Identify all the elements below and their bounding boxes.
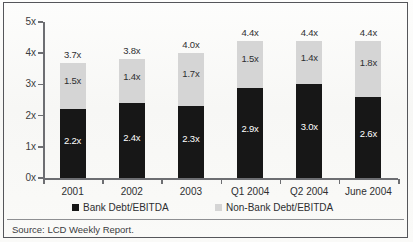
bar-value-label-non-bank: 1.8x — [355, 58, 381, 68]
bar-total-label: 4.0x — [174, 40, 208, 50]
bar-total-label: 4.4x — [292, 28, 326, 38]
x-axis-tick — [102, 179, 104, 184]
legend-label-non-bank: Non-Bank Debt/EBITDA — [226, 202, 333, 213]
x-axis-tick — [43, 179, 45, 184]
bar-value-label-bank: 2.9x — [237, 124, 263, 134]
x-axis-tick — [221, 179, 223, 184]
y-axis-tick-label: 0x — [8, 173, 36, 183]
y-axis-tick — [38, 115, 43, 117]
y-axis-tick-label: 4x — [8, 48, 36, 58]
bar-value-label-non-bank: 1.7x — [178, 69, 204, 79]
legend-item-non-bank-debt: Non-Bank Debt/EBITDA — [215, 202, 333, 213]
bar-value-label-bank: 2.3x — [178, 134, 204, 144]
bar-value-label-bank: 2.2x — [60, 136, 86, 146]
x-axis-tick — [398, 179, 400, 184]
bar-stack[interactable] — [178, 0, 204, 178]
y-axis-tick-label-text: 2x — [10, 111, 36, 121]
bar-value-label-bank: 2.6x — [355, 129, 381, 139]
source-divider — [7, 219, 404, 220]
source-note: Source: LCD Weekly Report. — [12, 224, 134, 235]
x-axis-label: Q1 2004 — [219, 186, 281, 197]
legend-swatch-icon-bank — [72, 204, 79, 211]
y-axis-tick — [38, 52, 43, 54]
legend-swatch-icon-non-bank — [215, 204, 222, 211]
x-axis-label: June 2004 — [337, 186, 399, 197]
bar-total-label: 4.4x — [233, 28, 267, 38]
bar-total-label: 3.7x — [56, 50, 90, 60]
x-axis-label: 2003 — [160, 186, 222, 197]
bar-value-label-bank: 3.0x — [296, 122, 322, 132]
y-axis-tick — [38, 21, 43, 23]
bar-total-label: 3.8x — [115, 46, 149, 56]
bar-segment-non-bank-debt[interactable] — [178, 53, 204, 106]
x-axis-label: Q2 2004 — [278, 186, 340, 197]
bar-value-label-non-bank: 1.5x — [237, 54, 263, 64]
bar-total-label: 4.4x — [351, 28, 385, 38]
y-axis-line — [43, 22, 45, 179]
bar-segment-non-bank-debt[interactable] — [355, 41, 381, 97]
chart-screenshot: 0x1x2x3x4x5x 1.5x2.2x3.7x1.4x2.4x3.8x1.7… — [0, 0, 413, 242]
y-axis-tick — [38, 84, 43, 86]
y-axis-tick — [38, 146, 43, 148]
bar-value-label-non-bank: 1.5x — [60, 76, 86, 86]
x-axis-label: 2001 — [42, 186, 104, 197]
chart-legend: Bank Debt/EBITDA Non-Bank Debt/EBITDA — [43, 202, 398, 216]
bar-value-label-bank: 2.4x — [119, 133, 145, 143]
y-axis-tick-label: 1x — [8, 142, 36, 152]
x-axis-tick — [280, 179, 282, 184]
legend-item-bank-debt: Bank Debt/EBITDA — [72, 202, 169, 213]
bar-value-label-non-bank: 1.4x — [119, 72, 145, 82]
y-axis-tick-label-text: 4x — [10, 48, 36, 58]
x-axis-label: 2002 — [101, 186, 163, 197]
bar-value-label-non-bank: 1.4x — [296, 53, 322, 63]
bar-stack[interactable] — [119, 0, 145, 178]
y-axis-tick-label: 2x — [8, 111, 36, 121]
y-axis-tick-label-text: 3x — [10, 79, 36, 89]
x-axis-tick — [339, 179, 341, 184]
y-axis-tick-label-text: 0x — [10, 173, 36, 183]
x-axis-tick — [161, 179, 163, 184]
y-axis-tick-label: 3x — [8, 79, 36, 89]
bar-stack[interactable] — [60, 0, 86, 178]
y-axis-tick-label-text: 5x — [10, 17, 36, 27]
legend-label-bank: Bank Debt/EBITDA — [83, 202, 169, 213]
y-axis-tick-label-text: 1x — [10, 142, 36, 152]
y-axis-tick-label: 5x — [8, 17, 36, 27]
